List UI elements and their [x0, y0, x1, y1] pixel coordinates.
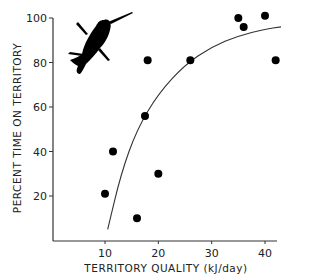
- fitted-curve: [108, 27, 281, 229]
- y-tick-label: 100: [26, 12, 47, 25]
- y-axis-label: PERCENT TIME ON TERRITORY: [11, 43, 23, 213]
- y-tick-label: 20: [33, 190, 47, 203]
- y-tick-label: 80: [33, 57, 47, 70]
- x-ticks: 10203040: [98, 241, 272, 260]
- data-point: [141, 112, 149, 120]
- hummingbird-icon: [68, 12, 133, 74]
- y-ticks: 20406080100: [26, 12, 53, 203]
- chart: 20406080100 10203040 PERCENT TIME ON TER…: [0, 0, 311, 279]
- data-point: [186, 56, 194, 64]
- data-points: [101, 12, 280, 222]
- data-point: [133, 214, 141, 222]
- data-point: [144, 56, 152, 64]
- data-point: [240, 23, 248, 31]
- x-tick-label: 10: [98, 247, 112, 260]
- data-point: [234, 14, 242, 22]
- x-tick-label: 20: [151, 247, 165, 260]
- x-tick-label: 40: [258, 247, 272, 260]
- x-tick-label: 30: [205, 247, 219, 260]
- data-point: [109, 148, 117, 156]
- data-point: [272, 56, 280, 64]
- data-point: [154, 170, 162, 178]
- data-point: [101, 190, 109, 198]
- y-tick-label: 40: [33, 146, 47, 159]
- x-axis-label: TERRITORY QUALITY (kJ/day): [83, 262, 247, 274]
- y-tick-label: 60: [33, 101, 47, 114]
- data-point: [261, 12, 269, 20]
